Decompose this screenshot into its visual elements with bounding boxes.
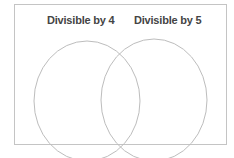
set-label-divisible-by-5: Divisible by 5 [134,14,202,26]
set-circle-divisible-by-5 [101,39,207,158]
set-label-divisible-by-4: Divisible by 4 [47,14,115,26]
set-circle-divisible-by-4 [34,41,140,158]
